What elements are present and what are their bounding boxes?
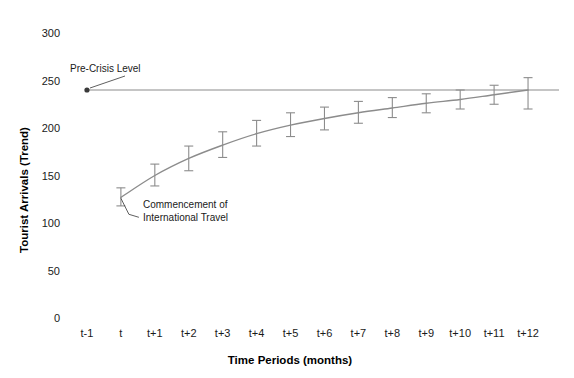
y-tick-label: 100: [42, 217, 60, 229]
x-tick-label: t+8: [385, 327, 401, 339]
pre-crisis-level-marker: [84, 87, 89, 92]
x-tick-label: t+9: [418, 327, 434, 339]
x-tick-label: t+1: [147, 327, 163, 339]
y-tick-label: 300: [42, 27, 60, 39]
x-tick-label: t+4: [249, 327, 265, 339]
chart-container: 050100150200250300 t-1tt+1t+2t+3t+4t+5t+…: [0, 0, 574, 378]
x-tick-label: t: [119, 327, 122, 339]
pre-crisis-level-annotation: Pre-Crisis Level: [70, 63, 141, 74]
x-tick-label: t+7: [351, 327, 367, 339]
y-tick-label: 50: [48, 265, 60, 277]
x-tick-label: t+3: [215, 327, 231, 339]
chart-background: [0, 0, 574, 378]
x-tick-label: t+12: [517, 327, 539, 339]
y-tick-label: 250: [42, 75, 60, 87]
x-tick-label: t-1: [81, 327, 94, 339]
tourist-arrivals-trend-chart: 050100150200250300 t-1tt+1t+2t+3t+4t+5t+…: [0, 0, 574, 378]
commencement-annotation-line-2: International Travel: [143, 212, 228, 223]
y-axis-title: Tourist Arrivals (Trend): [18, 127, 30, 253]
y-tick-label: 200: [42, 122, 60, 134]
y-tick-label: 0: [54, 312, 60, 324]
x-tick-label: t+6: [317, 327, 333, 339]
x-tick-label: t+5: [283, 327, 299, 339]
y-tick-label: 150: [42, 170, 60, 182]
x-tick-label: t+11: [484, 327, 505, 339]
x-tick-label: t+2: [181, 327, 197, 339]
commencement-annotation-line-1: Commencement of: [143, 199, 228, 210]
x-tick-label: t+10: [449, 327, 471, 339]
x-axis-title: Time Periods (months): [228, 354, 353, 366]
